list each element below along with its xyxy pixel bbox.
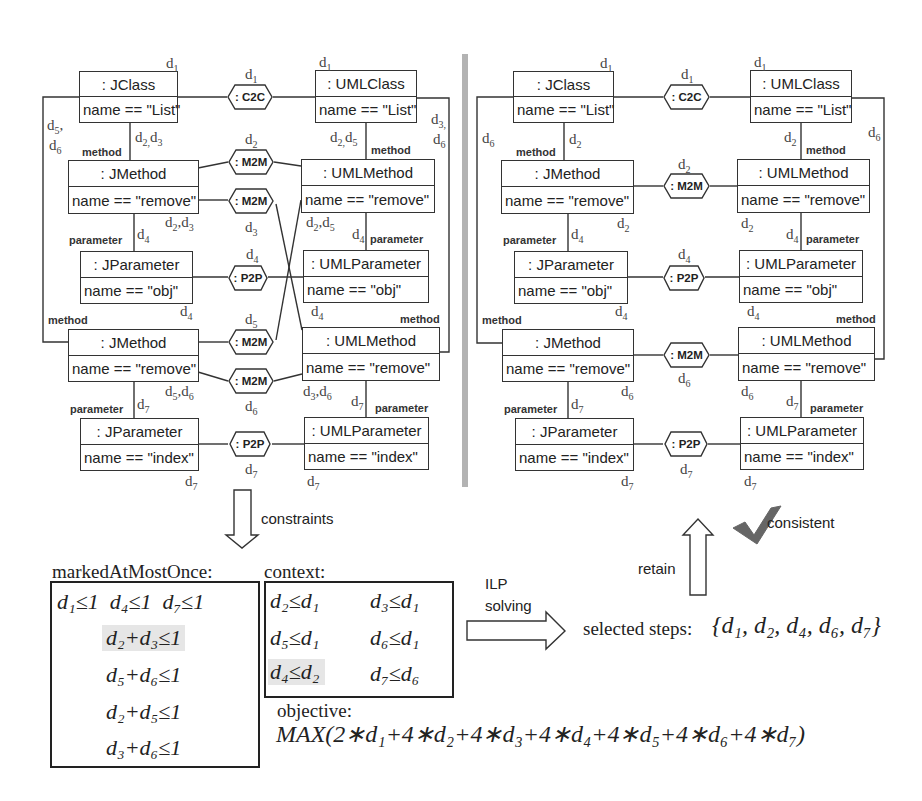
step-label: d2: [678, 156, 691, 175]
role-parameter-label: parameter: [503, 234, 556, 246]
step-label: d1: [245, 66, 258, 85]
role-method-label: method: [516, 146, 556, 158]
step-label: d4: [615, 303, 628, 322]
m2m-correspondence-c: : M2M: [663, 342, 710, 368]
role-method-label: method: [836, 313, 876, 325]
step-label: d2,d5: [330, 129, 358, 148]
constraint-row: d₅+d₆≤1: [106, 662, 181, 688]
umlclass-attr: name == "List": [751, 97, 851, 123]
jmethod2-attr: name == "remove": [69, 356, 198, 382]
umlparam1-box: : UMLParameter name == "obj": [303, 250, 429, 303]
umlmethod1-type: : UMLMethod: [302, 160, 434, 186]
umlparam1-box: : UMLParameter name == "obj": [739, 250, 863, 303]
left-diagram: : JClass name == "List" : UMLClass name …: [0, 0, 460, 480]
p2p-correspondence-b: : P2P: [664, 431, 708, 457]
role-method-label: method: [82, 146, 122, 158]
umlmethod2-attr: name == "remove": [739, 354, 874, 380]
jclass-attr: name == "List": [80, 97, 177, 122]
m2m-correspondence-c: : M2M: [228, 329, 274, 355]
m2m-correspondence-a: : M2M: [663, 173, 710, 199]
step-label: d1: [166, 55, 179, 74]
umlparam1-attr: name == "obj": [740, 277, 862, 303]
step-label: d7: [786, 393, 799, 412]
jmethod1-type: : JMethod: [69, 161, 198, 187]
umlmethod2-box: : UMLMethod name == "remove": [738, 327, 875, 381]
marked-at-most-once-box: d₁≤1 d₄≤1 d₇≤1 d₂+d₃≤1 d₅+d₆≤1 d₂+d₅≤1 d…: [50, 581, 260, 768]
jparam1-type: : JParameter: [81, 252, 192, 278]
jclass-box: : JClass name == "List": [79, 71, 178, 123]
context-constraint-highlighted: d₄≤d₂: [268, 659, 325, 685]
step-label: d2: [741, 215, 754, 234]
step-label: d7: [245, 461, 258, 480]
constraint-row-highlighted: d₂+d₃≤1: [102, 625, 185, 651]
c2c-correspondence: : C2C: [663, 84, 710, 110]
step-label: d5: [245, 311, 258, 330]
step-label: d2: [569, 131, 582, 150]
jmethod2-type: : JMethod: [69, 330, 198, 356]
step-label: d7: [137, 396, 150, 415]
arrow-right-icon: [467, 612, 565, 649]
step-label: d1: [600, 55, 613, 74]
jparam1-box: : JParameter name == "obj": [514, 251, 628, 304]
ilp-label: ILP: [485, 575, 508, 592]
step-label: d1: [681, 66, 694, 85]
jmethod2-box: : JMethod name == "remove": [502, 329, 634, 382]
step-label: d6: [868, 124, 881, 143]
umlclass-type: : UMLClass: [316, 71, 416, 97]
role-parameter-label: parameter: [69, 234, 122, 246]
role-method-label: method: [48, 314, 88, 326]
role-method-label: method: [482, 314, 522, 326]
step-label: d4: [786, 226, 799, 245]
jparam1-box: : JParameter name == "obj": [80, 251, 193, 304]
m2m-correspondence-d: : M2M: [228, 368, 274, 394]
marked-at-most-once-title: markedAtMostOnce:: [52, 561, 212, 583]
step-label: d6: [49, 137, 62, 156]
step-label: d7: [351, 393, 364, 412]
umlparam1-type: : UMLParameter: [304, 251, 428, 277]
step-label: d7: [571, 396, 584, 415]
p2p-correspondence-b: : P2P: [229, 431, 271, 457]
arrow-down-icon: [226, 490, 258, 548]
jclass-type: : JClass: [80, 72, 177, 97]
jclass-attr: name == "List": [514, 97, 613, 122]
context-constraint: d₇≤d₆: [370, 661, 419, 687]
step-label: d2: [617, 215, 630, 234]
step-label: d6: [741, 383, 754, 402]
step-label: d6: [433, 131, 446, 150]
jparam1-attr: name == "obj": [515, 278, 627, 304]
p2p-correspondence-a: : P2P: [228, 265, 268, 291]
constraint-row: d₃+d₆≤1: [106, 735, 181, 761]
role-parameter-label: parameter: [806, 233, 859, 245]
umlmethod2-type: : UMLMethod: [303, 328, 439, 354]
jparam2-type: : JParameter: [516, 419, 633, 445]
jmethod1-attr: name == "remove": [69, 187, 198, 213]
objective-expression: MAX(2∗d₁+4∗d₂+4∗d₃+4∗d₄+4∗d₅+4∗d₆+4∗d₇): [276, 720, 805, 748]
umlmethod2-box: : UMLMethod name == "remove": [302, 327, 440, 381]
step-label: d4: [137, 226, 150, 245]
step-label: d4: [311, 303, 324, 322]
arrow-up-icon: [683, 519, 713, 595]
jmethod1-attr: name == "remove": [502, 187, 633, 213]
jmethod1-type: : JMethod: [502, 161, 633, 187]
objective-title: objective:: [277, 700, 352, 722]
umlparam2-attr: name == "index": [741, 444, 863, 470]
step-label: d2,d5: [306, 214, 335, 233]
role-parameter-label: parameter: [370, 233, 423, 245]
umlclass-box: : UMLClass name == "List": [315, 70, 417, 123]
step-label: d3,d6: [303, 383, 332, 402]
step-label: d6: [678, 370, 691, 389]
umlparam2-box: : UMLParameter name == "index": [304, 417, 429, 470]
jclass-box: : JClass name == "List": [513, 71, 614, 123]
jmethod2-type: : JMethod: [503, 330, 633, 356]
selected-steps-set: {d₁, d₂, d₄, d₆, d₇}: [712, 612, 881, 639]
right-diagram: : JClass name == "List" : UMLClass name …: [460, 0, 922, 480]
step-label: d6: [482, 130, 495, 149]
jparam1-type: : JParameter: [515, 252, 627, 278]
jmethod2-attr: name == "remove": [503, 356, 633, 382]
umlclass-type: : UMLClass: [751, 71, 851, 97]
solving-label: solving: [485, 597, 532, 614]
umlclass-box: : UMLClass name == "List": [750, 70, 852, 123]
step-label: d2,d3: [165, 214, 194, 233]
m2m-correspondence-a: : M2M: [228, 149, 274, 175]
c2c-correspondence: : C2C: [227, 84, 273, 110]
